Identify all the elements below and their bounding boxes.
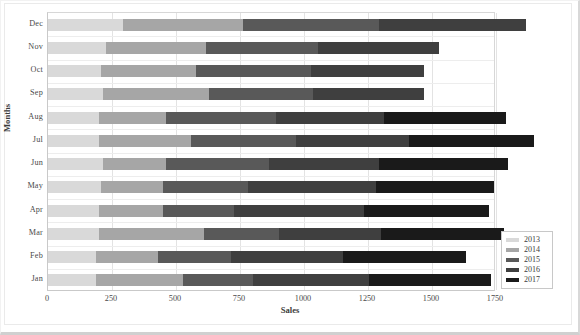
- bar-segment[interactable]: [103, 88, 209, 100]
- legend-item[interactable]: 2014: [506, 245, 549, 255]
- gridline-horizontal: [48, 222, 494, 223]
- bar-segment[interactable]: [381, 228, 504, 240]
- legend-item[interactable]: 2016: [506, 265, 549, 275]
- y-axis-tick-label: Nov: [1, 42, 43, 51]
- bar-segment[interactable]: [384, 112, 506, 124]
- bar-segment[interactable]: [99, 228, 204, 240]
- bar-row[interactable]: [48, 65, 496, 77]
- bar-row[interactable]: [48, 205, 496, 217]
- bar-segment[interactable]: [196, 65, 311, 77]
- bar-segment[interactable]: [183, 274, 253, 286]
- bar-row[interactable]: [48, 88, 496, 100]
- bar-segment[interactable]: [96, 274, 183, 286]
- legend-item[interactable]: 2017: [506, 275, 549, 285]
- bar-segment[interactable]: [48, 274, 96, 286]
- legend-swatch-icon: [506, 268, 519, 272]
- bar-segment[interactable]: [206, 42, 318, 54]
- y-axis-tick-label: Jan: [1, 274, 43, 283]
- bar-segment[interactable]: [191, 135, 296, 147]
- gridline-horizontal: [48, 269, 494, 270]
- bar-segment[interactable]: [103, 158, 166, 170]
- bar-row[interactable]: [48, 181, 496, 193]
- bar-segment[interactable]: [369, 274, 491, 286]
- bar-segment[interactable]: [296, 135, 409, 147]
- bar-segment[interactable]: [234, 205, 364, 217]
- bar-segment[interactable]: [48, 135, 99, 147]
- bar-segment[interactable]: [48, 88, 103, 100]
- bar-segment[interactable]: [48, 42, 106, 54]
- bar-segment[interactable]: [343, 251, 466, 263]
- bar-segment[interactable]: [364, 205, 489, 217]
- bar-segment[interactable]: [209, 88, 313, 100]
- y-axis-tick-label: Jul: [1, 135, 43, 144]
- gridline-vertical: [240, 13, 241, 290]
- bar-segment[interactable]: [99, 135, 191, 147]
- gridline-horizontal: [48, 36, 494, 37]
- bar-segment[interactable]: [158, 251, 231, 263]
- legend-swatch-icon: [506, 278, 519, 282]
- bar-segment[interactable]: [379, 19, 526, 31]
- bar-segment[interactable]: [99, 112, 166, 124]
- bar-row[interactable]: [48, 112, 496, 124]
- legend-item[interactable]: 2015: [506, 255, 549, 265]
- bar-segment[interactable]: [48, 65, 101, 77]
- x-axis-tick-label: 0: [45, 294, 49, 303]
- bar-row[interactable]: [48, 42, 496, 54]
- bar-segment[interactable]: [379, 158, 508, 170]
- legend-label: 2016: [524, 265, 540, 275]
- bar-segment[interactable]: [96, 251, 158, 263]
- bar-row[interactable]: [48, 19, 496, 31]
- bar-segment[interactable]: [123, 19, 243, 31]
- bar-segment[interactable]: [166, 158, 269, 170]
- bar-segment[interactable]: [204, 228, 279, 240]
- bar-row[interactable]: [48, 135, 496, 147]
- bar-segment[interactable]: [318, 42, 439, 54]
- bar-segment[interactable]: [231, 251, 343, 263]
- bar-segment[interactable]: [48, 181, 101, 193]
- x-axis-title: Sales: [0, 305, 580, 315]
- bar-segment[interactable]: [313, 88, 424, 100]
- bar-row[interactable]: [48, 158, 496, 170]
- legend-item[interactable]: 2013: [506, 235, 549, 245]
- bar-segment[interactable]: [243, 19, 379, 31]
- bar-segment[interactable]: [276, 112, 384, 124]
- bar-row[interactable]: [48, 228, 496, 240]
- bar-segment[interactable]: [48, 205, 99, 217]
- legend-swatch-icon: [506, 238, 519, 242]
- bar-segment[interactable]: [48, 251, 96, 263]
- bar-segment[interactable]: [279, 228, 381, 240]
- y-axis-tick-label: Sep: [1, 88, 43, 97]
- y-axis-tick-label: Apr: [1, 205, 43, 214]
- bar-segment[interactable]: [166, 112, 276, 124]
- gridline-vertical: [496, 13, 497, 290]
- gridline-horizontal: [48, 246, 494, 247]
- bar-segment[interactable]: [248, 181, 376, 193]
- x-axis-tick-label: 1750: [487, 294, 503, 303]
- bar-segment[interactable]: [163, 181, 248, 193]
- gridline-horizontal: [48, 60, 494, 61]
- bar-segment[interactable]: [106, 42, 206, 54]
- bar-row[interactable]: [48, 274, 496, 286]
- bar-segment[interactable]: [99, 205, 163, 217]
- bar-segment[interactable]: [48, 228, 99, 240]
- y-axis-tick-label: Jun: [1, 158, 43, 167]
- y-axis-tick-label: Feb: [1, 251, 43, 260]
- gridline-vertical: [304, 13, 305, 290]
- y-axis-tick-label: Mar: [1, 228, 43, 237]
- bar-segment[interactable]: [48, 19, 123, 31]
- x-axis-tick-label: 750: [233, 294, 245, 303]
- bar-segment[interactable]: [311, 65, 424, 77]
- bar-row[interactable]: [48, 251, 496, 263]
- bar-segment[interactable]: [101, 181, 163, 193]
- bar-segment[interactable]: [376, 181, 494, 193]
- gridline-horizontal: [48, 153, 494, 154]
- bar-segment[interactable]: [163, 205, 234, 217]
- bar-segment[interactable]: [101, 65, 196, 77]
- bar-segment[interactable]: [48, 112, 99, 124]
- bar-segment[interactable]: [253, 274, 369, 286]
- x-axis-tick-label: 500: [169, 294, 181, 303]
- y-axis-tick-label: May: [1, 181, 43, 190]
- bar-segment[interactable]: [48, 158, 103, 170]
- bar-segment[interactable]: [269, 158, 379, 170]
- bar-segment[interactable]: [409, 135, 534, 147]
